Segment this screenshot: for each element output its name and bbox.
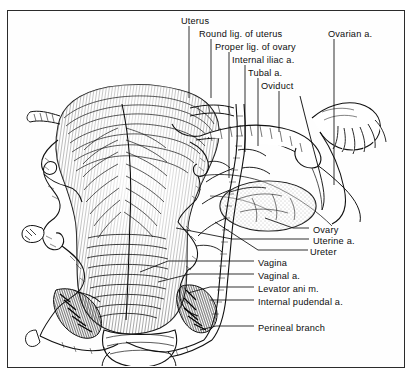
label-ureter: Ureter xyxy=(310,247,337,257)
label-internal-iliac-a: Internal iliac a. xyxy=(232,55,294,65)
label-uterus: Uterus xyxy=(181,16,209,26)
label-levator-ani-m: Levator ani m. xyxy=(258,284,319,294)
levator-ani-right xyxy=(177,285,217,333)
anatomy-figure: UterusRound lig. of uterusProper lig. of… xyxy=(0,0,414,378)
round-ligament-left xyxy=(27,111,60,124)
label-round-lig-uterus: Round lig. of uterus xyxy=(199,29,282,39)
ovary-group xyxy=(220,181,316,231)
label-tubal-a: Tubal a. xyxy=(248,68,282,78)
label-internal-pudendal-a: Internal pudendal a. xyxy=(258,297,343,307)
label-vagina: Vagina xyxy=(258,258,287,268)
label-uterine-a: Uterine a. xyxy=(313,236,355,246)
label-vaginal-a: Vaginal a. xyxy=(258,271,300,281)
anatomy-artwork xyxy=(0,0,414,378)
label-proper-lig-ovary: Proper lig. of ovary xyxy=(215,42,296,52)
label-ovarian-a: Ovarian a. xyxy=(328,29,372,39)
label-oviduct: Oviduct xyxy=(261,81,293,91)
label-ovary: Ovary xyxy=(313,225,338,235)
vagina-group xyxy=(102,330,177,376)
label-perineal-branch: Perineal branch xyxy=(258,323,325,333)
fimbriae-group xyxy=(312,103,386,154)
